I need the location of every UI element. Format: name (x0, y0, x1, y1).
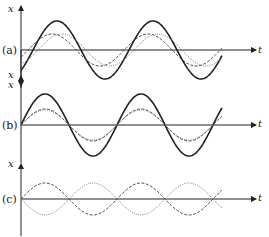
panel-c-y-axis-label: x (8, 159, 14, 169)
panel-a-y-axis-label: x (8, 4, 14, 14)
panel-a-t-axis-label: t (258, 45, 262, 55)
panel-a-label: (a) (2, 45, 17, 56)
interference-figure (0, 0, 269, 237)
panel-b-y-axis-label: x (8, 70, 14, 80)
panel-c-t-axis-label: t (258, 193, 262, 203)
panel-c (21, 164, 256, 236)
panel-b-t-axis-label: t (258, 119, 262, 129)
panel-a (21, 6, 256, 88)
panel-c-label: (c) (2, 194, 17, 205)
panel-b (21, 76, 256, 163)
panel-b-label: (b) (2, 120, 18, 131)
panel-a-neg-x-label: x (8, 80, 14, 90)
